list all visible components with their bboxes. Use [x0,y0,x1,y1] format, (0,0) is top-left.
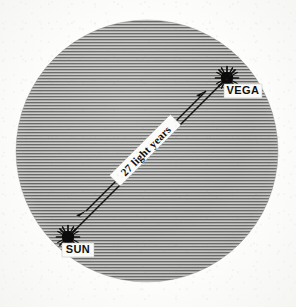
vega-label: VEGA [227,84,260,96]
astronomy-distance-figure: 27 light years VEGA [0,0,296,307]
sun-label: SUN [66,243,90,255]
figure-page: 27 light years VEGA [0,0,296,307]
